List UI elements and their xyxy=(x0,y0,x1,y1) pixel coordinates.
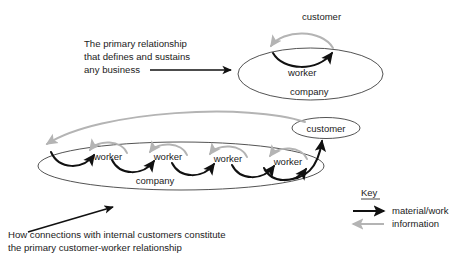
bottom-model-group: customer worker worker worker worker com… xyxy=(38,112,360,190)
bottom-company-label: company xyxy=(136,175,175,186)
top-model-group: customer worker company xyxy=(238,11,383,100)
bottom-global-information-arrow xyxy=(47,112,305,144)
bottom-material-work-arrow-4 xyxy=(232,165,274,177)
top-material-work-arrow xyxy=(273,53,332,67)
top-note-line-1: The primary relationship xyxy=(84,38,187,49)
diagram-canvas: customer worker company The primary rela… xyxy=(0,0,461,261)
top-annotation-group: The primary relationship that defines an… xyxy=(84,38,231,75)
bottom-material-work-arrow-3 xyxy=(172,163,214,175)
top-note-line-3: any business xyxy=(84,64,140,75)
key-title: Key xyxy=(361,187,378,198)
bottom-worker-label-1: worker xyxy=(93,151,123,162)
top-note-line-2: that defines and sustains xyxy=(84,51,190,62)
bottom-worker-label-4: worker xyxy=(273,156,303,167)
top-information-arrow xyxy=(271,33,333,48)
key-material-work-label: material/work xyxy=(392,205,449,216)
key-legend: Key material/work information xyxy=(353,187,449,229)
bottom-customer-label: customer xyxy=(306,123,345,134)
bottom-annotation-group: How connections with internal customers … xyxy=(8,207,226,253)
key-information-label: information xyxy=(392,218,439,229)
top-customer-label: customer xyxy=(302,11,341,22)
top-company-label: company xyxy=(290,86,329,97)
bottom-caption-line-1: How connections with internal customers … xyxy=(8,229,226,240)
top-worker-label: worker xyxy=(287,67,317,78)
bottom-caption-line-2: the primary customer-worker relationship xyxy=(8,242,182,253)
bottom-worker-label-2: worker xyxy=(153,151,183,162)
bottom-worker-label-3: worker xyxy=(213,153,243,164)
